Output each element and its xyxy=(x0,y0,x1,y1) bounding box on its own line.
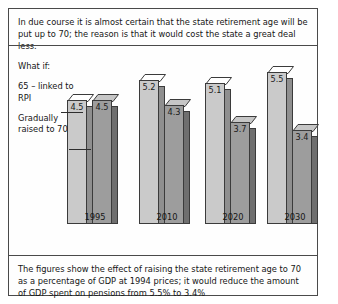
bar-2020-series1: 5.1 xyxy=(205,83,225,224)
bar-front-face xyxy=(267,72,287,224)
bar-2020-series2: 3.7 xyxy=(230,122,250,224)
bar-side-face xyxy=(184,111,190,224)
bar-front-face xyxy=(164,105,184,224)
bar-value-label: 5.1 xyxy=(205,85,225,95)
bar-front-face xyxy=(230,122,250,224)
figure-panel: In due course it is almost certain that … xyxy=(8,8,318,296)
x-axis-label-2030: 2030 xyxy=(267,212,323,222)
legend-item-series1: 65 – linked to RPI xyxy=(18,81,78,104)
bar-side-face xyxy=(312,136,318,224)
bar-front-face xyxy=(292,130,312,224)
bar-2030-series1: 5.5 xyxy=(267,72,287,224)
bar-value-label: 5.2 xyxy=(139,82,159,92)
bar-2030-series2: 3.4 xyxy=(292,130,312,224)
x-axis-label-2010: 2010 xyxy=(139,212,195,222)
bar-side-face xyxy=(112,106,118,224)
legend-leader-line-1 xyxy=(61,112,83,113)
bar-side-face xyxy=(250,128,256,224)
caption-paragraph: The figures show the effect of raising t… xyxy=(9,256,317,299)
bar-value-label: 3.7 xyxy=(230,124,250,134)
legend-leader-line-2 xyxy=(69,149,91,150)
bar-front-face xyxy=(92,100,112,224)
chart-legend: What if: 65 – linked to RPI Gradually ra… xyxy=(18,61,78,135)
bar-front-face xyxy=(139,80,159,224)
bar-value-label: 5.5 xyxy=(267,74,287,84)
bar-group: 5.24.32010 xyxy=(139,54,195,224)
bar-value-label: 3.4 xyxy=(292,132,312,142)
bar-group: 5.13.72020 xyxy=(205,54,261,224)
legend-title: What if: xyxy=(18,61,78,72)
x-axis-label-1995: 1995 xyxy=(67,212,123,222)
bar-1995-series2: 4.5 xyxy=(92,100,112,224)
bar-front-face xyxy=(205,83,225,224)
bar-value-label: 4.3 xyxy=(164,107,184,117)
bar-2010-series2: 4.3 xyxy=(164,105,184,224)
bar-value-label: 4.5 xyxy=(92,102,112,112)
bar-group: 5.53.42030 xyxy=(267,54,323,224)
x-axis-label-2020: 2020 xyxy=(205,212,261,222)
legend-item-series2: Gradually raised to 70 xyxy=(18,113,78,136)
bar-2010-series1: 5.2 xyxy=(139,80,159,224)
